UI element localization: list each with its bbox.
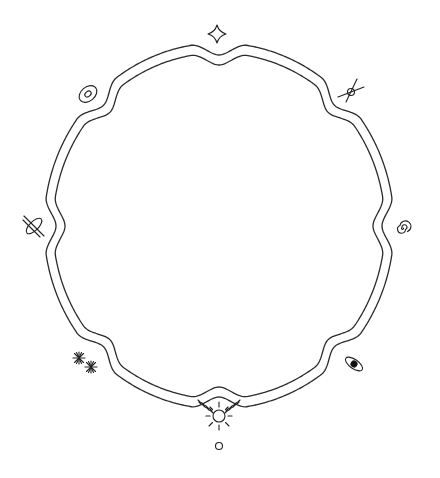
orbit-cross-icon[interactable] <box>23 216 44 237</box>
crossed-lines-circle-icon[interactable] <box>338 79 364 102</box>
twin-asterisk-icon[interactable] <box>73 352 97 373</box>
board-canvas <box>0 0 440 478</box>
eye-ellipse-icon[interactable] <box>343 355 365 374</box>
ring-frame <box>46 45 392 407</box>
oval-eye-icon[interactable] <box>76 82 100 106</box>
inner-ring <box>55 55 383 396</box>
small-circle-icon[interactable] <box>216 443 223 450</box>
four-point-star-icon[interactable] <box>208 25 226 43</box>
spiral-icon[interactable] <box>398 221 411 233</box>
outer-ring <box>46 45 392 407</box>
sun-chain-icon[interactable] <box>198 400 240 430</box>
